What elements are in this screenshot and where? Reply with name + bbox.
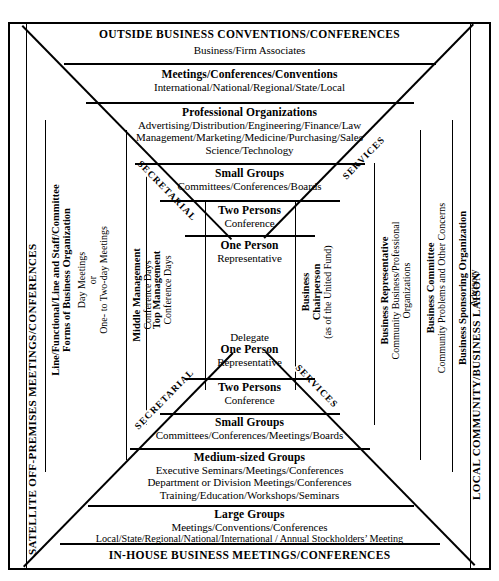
- tier-top-0: Business/Firm Associates: [0, 44, 499, 56]
- diagram-canvas: OUTSIDE BUSINESS CONVENTIONS/CONFERENCES…: [0, 0, 499, 581]
- left-column-middle-management: Middle Management Conference Days: [131, 170, 153, 420]
- rule-top-2: [86, 102, 414, 104]
- bottom-band-title: IN-HOUSE BUSINESS MEETINGS/CONFERENCES: [0, 549, 499, 561]
- rule-bottom-4: [160, 413, 340, 415]
- tier-bottom-3: Medium-sized Groups Executive Seminars/M…: [0, 451, 499, 501]
- right-column-business-committee: Business Committee Community Problems an…: [425, 128, 447, 448]
- right-column-business-representative: Business Representative Community Busine…: [379, 153, 412, 428]
- rule-bottom-3: [130, 448, 370, 450]
- tier-bottom-4: Large Groups Meetings/Conventions/Confer…: [0, 508, 499, 545]
- right-column-business-chairperson: Business Chairperson (as of the United F…: [300, 192, 333, 392]
- left-column-top-management: Top Management Conference Days: [151, 180, 173, 400]
- rule-top-3: [135, 163, 365, 165]
- top-band-title: OUTSIDE BUSINESS CONVENTIONS/CONFERENCES: [0, 28, 499, 40]
- tier-top-1: Meetings/Conferences/Conventions Interna…: [0, 68, 499, 93]
- rule-bottom-5: [185, 378, 315, 380]
- rule-bottom-2: [88, 505, 414, 507]
- rule-top-5: [185, 235, 315, 237]
- rule-top-1: [64, 63, 436, 65]
- left-column-forms-of-business-organization: Line/Functional/Line and Staff/Committee…: [50, 120, 109, 440]
- right-column-business-sponsoring-organization: Business Sponsoring Organization Advisor…: [457, 128, 479, 448]
